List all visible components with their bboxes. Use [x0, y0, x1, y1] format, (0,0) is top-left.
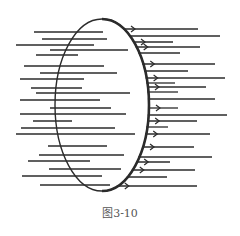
emergent-arrow-lines: [117, 26, 227, 189]
optics-diagram: [0, 0, 240, 236]
figure-caption: 图3-10: [0, 204, 240, 220]
incident-lines: [16, 32, 135, 185]
